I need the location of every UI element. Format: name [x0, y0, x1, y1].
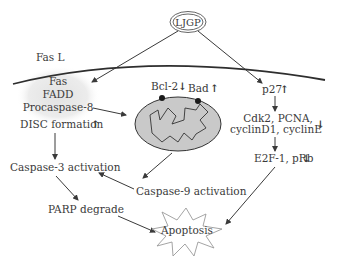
mitochondrion — [135, 97, 221, 151]
ljgp-label: LJGP — [175, 17, 201, 28]
procaspase8-label: Procaspase-8 — [23, 101, 94, 113]
arrow-caspase9-to-caspase3 — [99, 173, 134, 189]
arrow-parp-to-apoptosis — [118, 216, 155, 232]
fas-ligand-label: Fas L — [36, 51, 65, 63]
bad-label: Bad — [188, 82, 209, 94]
arrow-ljgp-to-p27 — [198, 31, 262, 83]
down-arrow-icon: ↓ — [302, 152, 311, 164]
ljgp-node: LJGP — [170, 12, 206, 33]
arrow-mito-to-caspase9 — [143, 153, 172, 178]
fadd-label: FADD — [43, 88, 74, 100]
bcl2-label: Bcl-2 — [151, 80, 178, 92]
down-arrow-icon: ↓ — [178, 80, 187, 92]
arrow-ljgp-to-disc — [92, 31, 178, 82]
apoptosis-label: Apoptosis — [160, 224, 213, 236]
up-arrow-icon: ↑ — [91, 118, 100, 130]
parp-label: PARP degrade — [48, 203, 124, 215]
bad-marker — [195, 98, 201, 104]
down-arrow-icon: ↓ — [316, 118, 325, 130]
up-arrow-icon: ↑ — [280, 83, 289, 95]
bcl2-marker — [159, 95, 165, 101]
arrow-procaspase8-to-mito — [93, 108, 126, 115]
arrow-caspase3-to-parp — [56, 176, 78, 200]
caspase3-label: Caspase-3 activation — [10, 161, 121, 173]
fas-label: Fas — [49, 75, 67, 87]
caspase9-label: Caspase-9 activation — [136, 185, 247, 197]
cdk-line2-label: cyclinD1, cyclinE — [230, 123, 322, 135]
apoptosis-pathway-diagram: LJGP Fas L Fas FADD Procaspase-8 DISC fo… — [0, 0, 338, 268]
up-arrow-icon: ↑ — [210, 82, 219, 94]
